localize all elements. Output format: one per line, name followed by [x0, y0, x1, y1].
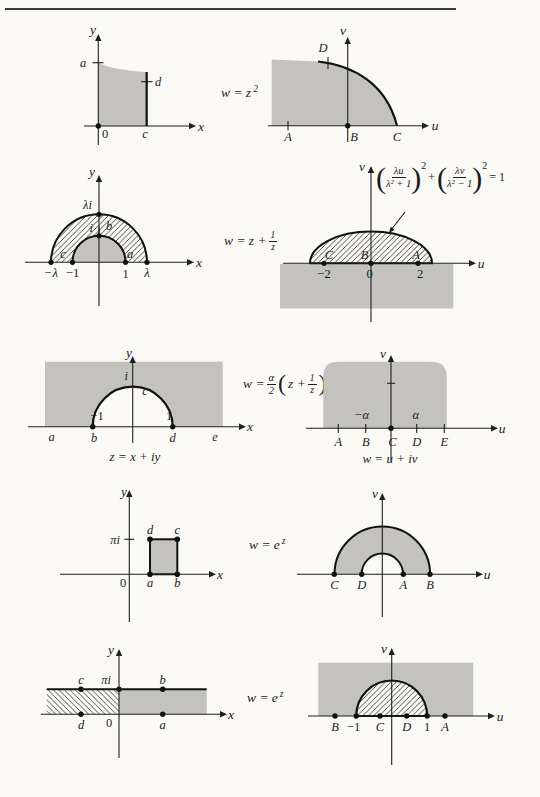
equation-pointer-line: [391, 212, 405, 230]
row3-w-plane: v u −α α A B C D E w = u + iv: [298, 348, 533, 473]
label-i: i: [90, 221, 94, 235]
label-c: c: [78, 673, 84, 687]
hatched-left-strip: [47, 689, 119, 714]
y-axis-label: y: [124, 348, 132, 360]
row4-formula: w = ez: [249, 537, 286, 553]
label-b: b: [106, 219, 112, 233]
formula-base: w = z: [221, 85, 251, 101]
x-arrow-icon: [220, 711, 227, 717]
label-B: B: [362, 435, 370, 449]
formula-lhs: w = z +: [224, 233, 267, 249]
x-axis-label: x: [227, 707, 234, 722]
label-d: d: [147, 523, 154, 537]
label-c: c: [142, 384, 148, 398]
u-arrow-icon: [476, 571, 483, 577]
v-axis-label: v: [359, 160, 365, 174]
open-paren: (: [278, 373, 286, 395]
y-axis-label: y: [106, 643, 114, 657]
label-zero: 0: [366, 267, 372, 281]
label-b: b: [174, 576, 180, 590]
label-a: a: [127, 247, 133, 261]
label-D: D: [411, 435, 421, 449]
label-alpha: α: [412, 408, 419, 422]
axes: [60, 497, 209, 622]
x-axis-label: x: [246, 419, 253, 434]
label-d: d: [155, 75, 162, 89]
row4-w-plane: v u C D A B: [293, 487, 498, 625]
fraction: 1z: [269, 230, 278, 252]
v-axis-label: v: [380, 348, 386, 361]
label-neg-one: −1: [90, 409, 103, 423]
u-arrow-icon: [422, 123, 429, 129]
label-lambda-i: λi: [82, 198, 92, 212]
label-C: C: [376, 720, 385, 734]
origin-dot: [96, 123, 101, 128]
x-arrow-icon: [189, 123, 196, 129]
label-A: A: [440, 720, 449, 734]
label-C: C: [393, 130, 402, 144]
x-axis-label: x: [197, 119, 204, 134]
x-axis-label: x: [195, 255, 202, 270]
point-B-dot: [345, 123, 350, 128]
u-axis-label: u: [432, 118, 439, 133]
v-arrow-icon: [345, 37, 351, 44]
label-neg-one: −1: [66, 266, 79, 280]
label-B: B: [361, 248, 369, 262]
u-arrow-icon: [488, 713, 495, 719]
u-axis-label: u: [499, 421, 506, 436]
u-axis-label: u: [484, 567, 491, 582]
ellipse-equation: ( λuλ² + 1 )2 + ( λvλ² − 1 )2 = 1: [376, 164, 507, 191]
label-a: a: [80, 56, 86, 70]
label-neg-one: −1: [347, 720, 360, 734]
x-arrow-icon: [187, 259, 194, 265]
label-A: A: [398, 578, 407, 592]
y-arrow-icon: [116, 649, 122, 656]
label-one: 1: [166, 409, 172, 423]
label-B: B: [426, 578, 434, 592]
y-arrow-icon: [126, 490, 132, 497]
x-axis-label: x: [216, 567, 223, 582]
label-pi-i: πi: [110, 533, 120, 547]
x-arrow-icon: [209, 571, 216, 577]
y-arrow-icon: [95, 34, 101, 41]
label-a: a: [160, 718, 166, 732]
equation-pointer-arrow-icon: [389, 227, 395, 233]
row1-w-plane: v u D A B C: [258, 20, 453, 150]
label-i: i: [125, 369, 129, 383]
label-neg-lambda: −λ: [44, 266, 58, 280]
label-D: D: [401, 720, 411, 734]
formula-sup: z: [280, 689, 284, 699]
y-axis-label: y: [87, 164, 95, 179]
label-neg-two: −2: [317, 267, 330, 281]
label-a: a: [147, 576, 153, 590]
label-b: b: [91, 431, 97, 445]
v-axis-label: v: [372, 487, 378, 501]
point-C-dot: [388, 426, 393, 431]
row5-z-plane: y x c πi b d 0 a: [23, 643, 243, 768]
label-c: c: [60, 247, 66, 261]
label-a: a: [48, 430, 54, 444]
z-plane-caption: z = x + iy: [109, 449, 161, 464]
label-B: B: [331, 720, 339, 734]
v-axis-label: v: [381, 643, 387, 656]
v-arrow-icon: [379, 493, 385, 500]
shaded-region: [98, 63, 146, 126]
label-d: d: [169, 431, 176, 445]
row2-z-plane: y x λi i b c a −λ −1 1 λ: [18, 163, 213, 318]
label-one: 1: [122, 267, 128, 281]
row3-z-plane: y x i c −1 1 a b d e z = x + iy: [18, 348, 263, 473]
label-C: C: [325, 248, 334, 262]
row5-w-plane: v u B −1 C D 1 A: [298, 643, 518, 771]
fraction-alpha-2: α2: [267, 372, 277, 397]
textbook-page: y x a d 0 c w = z2 v u D A B C: [0, 0, 540, 797]
label-D: D: [317, 41, 327, 55]
label-A: A: [333, 435, 342, 449]
row4-z-plane: y x πi d c 0 a b: [28, 487, 233, 629]
label-B: B: [350, 130, 358, 144]
label-neg-alpha: −α: [354, 408, 369, 422]
v-arrow-icon: [388, 355, 394, 362]
label-D: D: [356, 578, 366, 592]
shaded-region: [323, 362, 446, 429]
formula-lhs: w =: [243, 376, 265, 392]
label-e: e: [212, 430, 218, 444]
